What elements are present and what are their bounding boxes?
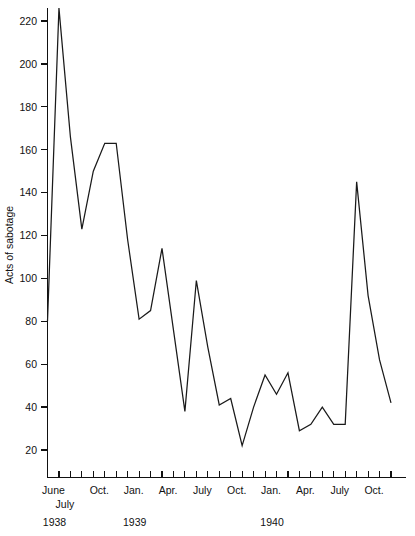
y-axis-tick-label: 20 bbox=[25, 444, 37, 456]
x-axis-tick-label: July bbox=[193, 484, 212, 496]
x-axis-tick-label: Oct. bbox=[90, 484, 109, 496]
y-axis-tick-label: 200 bbox=[19, 58, 37, 70]
x-axis-tick-label: July bbox=[56, 498, 75, 510]
y-axis-tick-label: 120 bbox=[19, 229, 37, 241]
x-axis-year-label: 1940 bbox=[260, 516, 284, 528]
y-axis-tick-label: 60 bbox=[25, 358, 37, 370]
y-axis-tick-label: 100 bbox=[19, 272, 37, 284]
x-axis-tick-label: Apr. bbox=[296, 484, 315, 496]
x-axis-year-label: 1939 bbox=[123, 516, 147, 528]
y-axis-tick-label: 140 bbox=[19, 186, 37, 198]
y-axis-tick-label: 80 bbox=[25, 315, 37, 327]
x-axis-tick-label: Oct. bbox=[364, 484, 383, 496]
sabotage-line-chart: 20406080100120140160180200220 JuneJulyOc… bbox=[0, 0, 415, 536]
x-axis-tick-label: Jan. bbox=[261, 484, 281, 496]
y-axis-title: Acts of sabotage bbox=[3, 206, 15, 284]
x-axis-year-label: 1938 bbox=[43, 516, 67, 528]
x-axis-tick-label: Apr. bbox=[159, 484, 178, 496]
y-axis-tick-label: 160 bbox=[19, 144, 37, 156]
x-axis-tick-label: July bbox=[330, 484, 349, 496]
y-axis-tick-label: 180 bbox=[19, 101, 37, 113]
y-axis-tick-label: 220 bbox=[19, 15, 37, 27]
x-axis-tick-label: Oct. bbox=[227, 484, 246, 496]
y-axis-tick-label: 40 bbox=[25, 401, 37, 413]
chart-canvas: 20406080100120140160180200220 JuneJulyOc… bbox=[0, 0, 415, 536]
x-axis-tick-label: Jan. bbox=[124, 484, 144, 496]
x-axis-tick-label: June bbox=[42, 484, 65, 496]
